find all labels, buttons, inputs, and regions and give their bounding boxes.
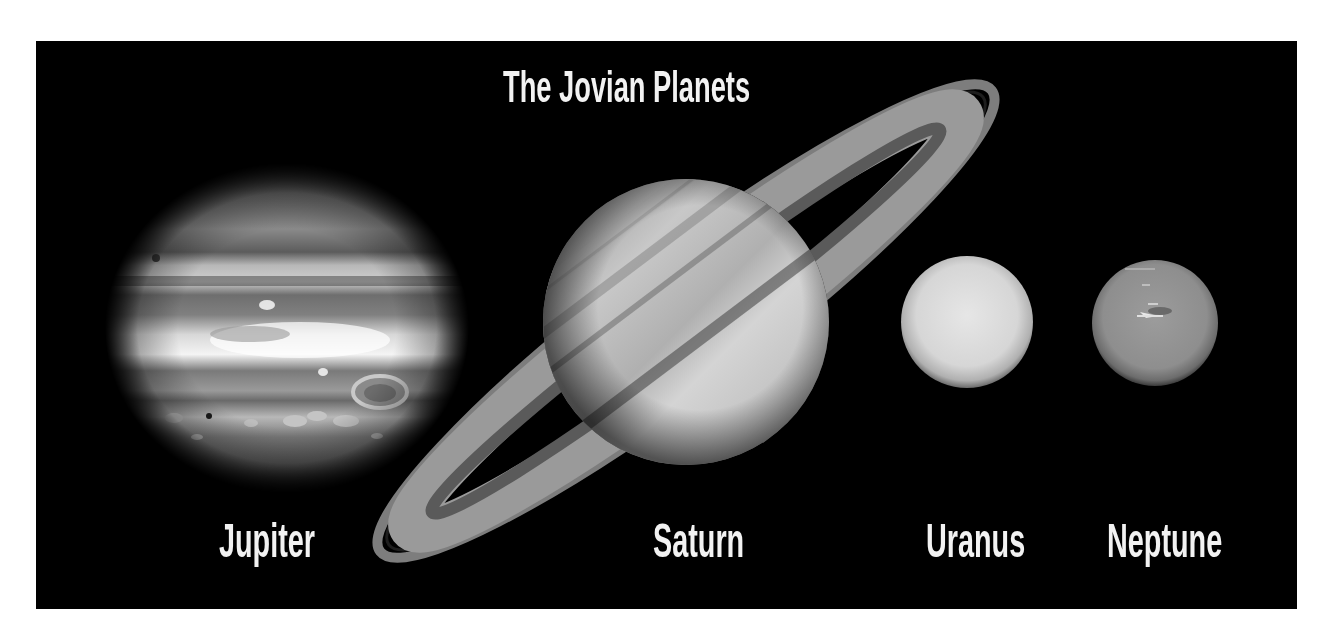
- label-jupiter: Jupiter: [219, 513, 315, 568]
- page-title: The Jovian Planets: [503, 62, 750, 112]
- label-neptune: Neptune: [1107, 513, 1222, 568]
- label-uranus: Uranus: [926, 513, 1025, 568]
- uranus-image: [901, 256, 1033, 388]
- jupiter-image: [105, 163, 470, 493]
- neptune-image: [1092, 260, 1218, 386]
- label-saturn: Saturn: [653, 513, 744, 568]
